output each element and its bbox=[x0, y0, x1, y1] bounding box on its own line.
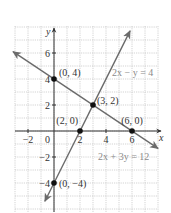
x-tick-label: 4 bbox=[104, 134, 109, 145]
point-marker bbox=[90, 102, 96, 108]
x-axis-label: x bbox=[158, 132, 164, 143]
point-marker bbox=[129, 128, 135, 134]
y-tick-label: −4 bbox=[39, 178, 50, 189]
x-tick-label: −2 bbox=[23, 134, 34, 145]
point-marker bbox=[51, 180, 57, 186]
equation-label-2x-plus-3y: 2x + 3y = 12 bbox=[98, 151, 149, 162]
point-label: (3, 2) bbox=[97, 95, 119, 107]
point-marker bbox=[77, 128, 83, 134]
y-axis-label: y bbox=[45, 26, 51, 37]
x-tick-label: 6 bbox=[130, 134, 135, 145]
point-label: (2, 0) bbox=[56, 115, 78, 127]
point-label: (0, 4) bbox=[59, 67, 81, 79]
y-tick-label: −2 bbox=[39, 152, 50, 163]
point-label: (0, −4) bbox=[59, 178, 86, 190]
point-label: (6, 0) bbox=[121, 115, 143, 127]
point-marker bbox=[51, 76, 57, 82]
y-tick-label: 6 bbox=[45, 48, 50, 59]
y-tick-label: 2 bbox=[45, 100, 50, 111]
equation-label-2x-minus-y: 2x − y = 4 bbox=[112, 67, 153, 78]
origin-label: 0 bbox=[45, 134, 50, 145]
coordinate-graph: xy −2246642−2−40 (0, 4)(3, 2)(2, 0)(6, 0… bbox=[0, 0, 171, 213]
